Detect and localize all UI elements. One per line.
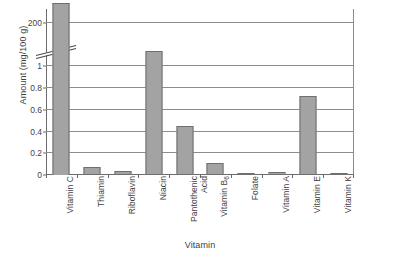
y-tick-label: 0.2: [30, 148, 42, 158]
bar: [176, 126, 193, 175]
bar-slot: [200, 9, 231, 175]
bar-slot: [77, 9, 108, 175]
y-tick-label: 0.8: [30, 83, 42, 93]
bar: [84, 167, 101, 175]
x-category-label: Vitamin B6: [219, 176, 230, 246]
y-tick-label: 0: [37, 170, 42, 180]
x-category-label: Folate: [250, 176, 260, 246]
y-axis-title: Amount (mg/100 g): [18, 0, 28, 140]
x-category-label: Niacin: [158, 176, 168, 246]
x-axis-title: Vitamin: [46, 240, 354, 250]
bar: [330, 173, 347, 175]
y-tick-label: 0.6: [30, 105, 42, 115]
x-category-label: Vitamin E: [312, 176, 322, 246]
x-category-label: Vitamin K: [343, 176, 353, 246]
bar-slot: [46, 9, 77, 175]
x-category-label: Vitamin C: [65, 176, 75, 246]
x-category-label: Riboflavin: [127, 176, 137, 246]
x-axis-category-labels: Vitamin CThiaminRiboflavinNiacinPantothe…: [46, 176, 354, 238]
bar-slot: [323, 9, 354, 175]
bar: [53, 3, 70, 175]
bar-slot: [262, 9, 293, 175]
y-tick-label: 0.4: [30, 127, 42, 137]
bar: [114, 171, 131, 175]
bars-group: [46, 9, 354, 175]
bar-slot: [108, 9, 139, 175]
bar: [145, 51, 162, 175]
bar-slot: [292, 9, 323, 175]
y-tick-label: 1: [37, 61, 42, 71]
bar-slot: [138, 9, 169, 175]
bar: [207, 163, 224, 175]
vitamin-bar-chart: Amount (mg/100 g) 00.20.40.60.81200 Vita…: [0, 0, 393, 258]
y-tick-label: 200: [28, 18, 42, 28]
bar: [238, 173, 255, 175]
bar-slot: [169, 9, 200, 175]
plot-area: 00.20.40.60.81200: [46, 9, 354, 175]
bar: [299, 96, 316, 175]
bar: [268, 172, 285, 175]
x-category-label: Vitamin A: [281, 176, 291, 246]
x-category-label: Thiamin: [96, 176, 106, 246]
bar-slot: [231, 9, 262, 175]
x-category-label: Pantothenic Acid: [189, 176, 209, 246]
